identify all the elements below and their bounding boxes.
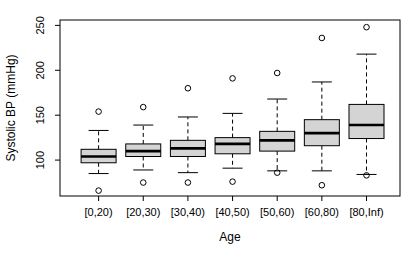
x-axis-tick-label: [30,40) bbox=[171, 206, 205, 218]
x-axis-tick-label: [80,Inf) bbox=[349, 206, 383, 218]
iqr-box bbox=[349, 104, 384, 138]
y-axis-tick-label: 250 bbox=[34, 16, 46, 34]
boxplot-chart: 100150200250[0,20)[20,30)[30,40)[40,50)[… bbox=[0, 0, 419, 259]
y-axis-title: Systolic BP (mmHg) bbox=[4, 54, 18, 161]
y-axis-tick-label: 150 bbox=[34, 106, 46, 124]
boxplot-figure: 100150200250[0,20)[20,30)[30,40)[40,50)[… bbox=[0, 0, 419, 259]
x-axis-tick-label: [50,60) bbox=[260, 206, 294, 218]
y-axis-tick-label: 200 bbox=[34, 61, 46, 79]
x-axis-title: Age bbox=[219, 230, 241, 244]
x-axis-tick-label: [0,20) bbox=[85, 206, 113, 218]
y-axis-tick-label: 100 bbox=[34, 151, 46, 169]
iqr-box bbox=[215, 138, 250, 154]
x-axis-tick-label: [60,80) bbox=[305, 206, 339, 218]
x-axis-tick-label: [40,50) bbox=[215, 206, 249, 218]
x-axis-tick-label: [20,30) bbox=[126, 206, 160, 218]
